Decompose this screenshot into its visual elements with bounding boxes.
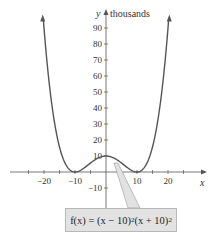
x-axis-label: x [199, 177, 205, 188]
x-tick-label: −10 [68, 176, 83, 186]
curve-arrow-right-icon [167, 14, 172, 21]
callout-exp2: 2 [168, 216, 172, 224]
y-tick-label: −10 [88, 183, 103, 193]
y-tick-label: 30 [93, 119, 103, 129]
x-tick-label: 20 [164, 176, 174, 186]
y-tick-label: 70 [93, 55, 103, 65]
y-axis-label: y [95, 8, 101, 19]
y-tick-label: 90 [93, 23, 103, 33]
y-tick-labels: 908070605040302010−10 [88, 23, 103, 193]
x-tick-labels: −20−101020 [37, 176, 173, 186]
y-axis-arrow-icon [104, 9, 109, 15]
callout-prefix: f(x) = (x − 10) [70, 215, 131, 226]
callout-mid: (x + 10) [134, 215, 168, 226]
curve-arrow-left-icon [40, 14, 45, 21]
x-axis-arrow-icon [201, 170, 207, 175]
x-tick-label: −20 [37, 176, 52, 186]
y-tick-label: 50 [93, 87, 103, 97]
chart-canvas: −20−101020 908070605040302010−10 x y tho… [0, 0, 220, 242]
x-tick-label: 10 [133, 176, 143, 186]
y-tick-label: 80 [93, 39, 103, 49]
y-tick-label: 40 [93, 103, 103, 113]
y-axis-unit: thousands [110, 8, 150, 19]
y-tick-label: 20 [93, 135, 103, 145]
function-label-callout: f(x) = (x − 10)2(x + 10)2 [65, 208, 177, 232]
y-tick-label: 60 [93, 71, 103, 81]
